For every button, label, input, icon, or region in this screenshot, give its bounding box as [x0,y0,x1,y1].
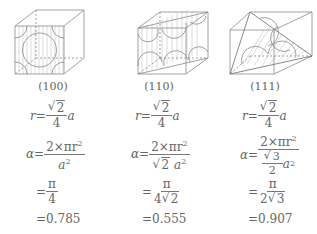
density-formula: α=2×πr2a2 [26,137,85,172]
density-formula: α=2×πr232a2 [240,132,299,178]
simplified-formula: =π4 [36,178,58,206]
atom-arc [268,41,296,56]
cube-top-edges [15,10,84,26]
atom-arc [162,23,186,38]
atom-arc [242,46,268,64]
atom-arc [138,29,158,42]
cube-front-face [230,30,274,74]
simplified-formula: =π23 [248,178,287,206]
radius-formula: r=24a [242,102,287,130]
corner-atom-arc [52,26,64,38]
figure-100: (100) r=24a α=2×πr2a2 =π4 =0.785 [0,0,106,234]
cube-right-edges [64,10,84,74]
center-atom-circle [23,33,57,67]
density-value: =0.555 [142,212,186,226]
plane-111-triangle [230,12,312,74]
corner-atom-arc [15,26,27,38]
density-value: =0.907 [248,212,292,226]
cube-110-diagram [106,4,212,76]
radius-formula: r=24a [30,102,75,130]
plane-label: (111) [212,80,317,93]
figure-111: (111) r=24a α=2×πr232a2 =π23 =0.907 [212,0,317,234]
plane-label: (110) [106,80,212,93]
simplified-formula: =π42 [142,178,181,206]
corner-atom-arc [52,62,64,74]
density-value: =0.785 [36,212,80,226]
figure-110: (110) r=24a α=2×πr22 a2 =π42 =0.555 [106,0,212,234]
cube-100-diagram [0,4,106,76]
radius-formula: r=24a [135,102,180,130]
density-formula: α=2×πr22 a2 [131,137,190,172]
plane-label: (100) [0,80,106,93]
hatch-lines [142,10,197,74]
corner-atom-arc [15,62,27,74]
cube-111-diagram [212,4,317,76]
